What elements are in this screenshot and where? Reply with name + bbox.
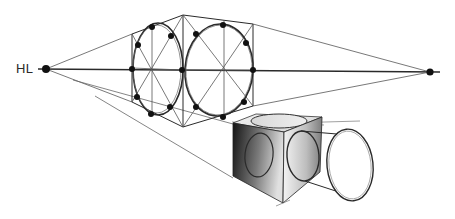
left-vanishing-point [42,65,50,73]
shaded-cube [233,114,322,203]
right-vanishing-point [426,68,433,75]
perspective-diagram [0,0,455,219]
horizon-line [38,69,440,72]
